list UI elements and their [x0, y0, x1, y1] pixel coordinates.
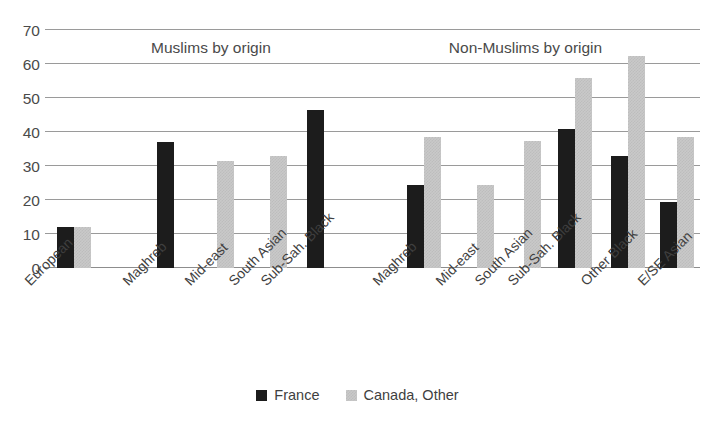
bar — [558, 129, 575, 268]
group-title: Non-Muslims by origin — [449, 40, 602, 56]
y-tick-label-40: 40 — [0, 125, 40, 141]
bar — [424, 137, 441, 268]
gridline-40 — [45, 131, 700, 132]
y-axis: 010203040506070 — [0, 30, 40, 268]
y-tick-label-20: 20 — [0, 193, 40, 209]
gridline-60 — [45, 63, 700, 64]
gridline-20 — [45, 199, 700, 200]
gridline-30 — [45, 165, 700, 166]
legend-item[interactable]: France — [256, 388, 319, 403]
legend-item[interactable]: Canada, Other — [346, 388, 459, 403]
bar — [575, 78, 592, 268]
y-tick-label-10: 10 — [0, 227, 40, 243]
legend-swatch-icon — [256, 390, 267, 401]
category-axis-labels: EuropeanMaghrebMid-eastSouth AsianSub-Sa… — [0, 268, 715, 378]
y-tick-label-50: 50 — [0, 91, 40, 107]
legend-label: France — [274, 388, 319, 403]
y-tick-label-70: 70 — [0, 23, 40, 39]
y-tick-label-60: 60 — [0, 57, 40, 73]
legend-swatch-icon — [346, 390, 357, 401]
bar — [74, 227, 91, 268]
bar-chart: 010203040506070 Muslims by originNon-Mus… — [0, 0, 715, 431]
gridline-70 — [45, 29, 700, 30]
legend-label: Canada, Other — [364, 388, 459, 403]
y-tick-label-30: 30 — [0, 159, 40, 175]
gridline-10 — [45, 233, 700, 234]
plot-area — [45, 30, 700, 268]
gridline-50 — [45, 97, 700, 98]
legend: FranceCanada, Other — [0, 388, 715, 403]
group-title: Muslims by origin — [151, 40, 271, 56]
